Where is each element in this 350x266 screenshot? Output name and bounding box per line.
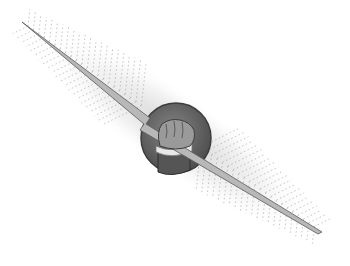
fist-lightning-illustration [0,0,350,266]
fist [158,120,194,150]
